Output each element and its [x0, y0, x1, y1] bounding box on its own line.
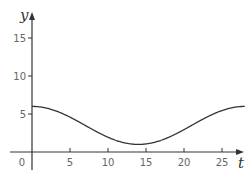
y-axis: [29, 12, 35, 170]
tick-marks: [28, 38, 222, 152]
y-axis-arrow-icon: [29, 12, 35, 20]
curve-line: [32, 106, 245, 144]
y-tick-label: 5: [20, 109, 26, 120]
y-tick-label: 10: [13, 71, 26, 82]
x-tick-label: 5: [67, 157, 73, 168]
origin-label: 0: [19, 157, 25, 168]
y-axis-label: y: [19, 6, 29, 24]
x-tick-label: 25: [216, 157, 229, 168]
x-tick-label: 20: [178, 157, 191, 168]
x-axis-label: t: [238, 154, 245, 172]
x-axis: [10, 149, 244, 155]
x-tick-label: 15: [140, 157, 153, 168]
tick-labels: 51015202551015: [13, 33, 228, 168]
y-tick-label: 15: [13, 33, 26, 44]
chart: 51015202551015 0 y t: [0, 0, 250, 181]
x-tick-label: 10: [102, 157, 115, 168]
